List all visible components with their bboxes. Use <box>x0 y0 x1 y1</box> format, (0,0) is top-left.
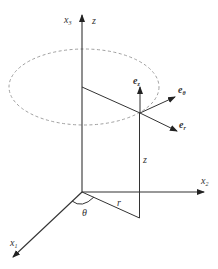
ez-label: ez <box>133 75 140 87</box>
radial-line-top <box>82 87 140 113</box>
radius-line <box>82 192 140 218</box>
height-z-label: z <box>142 154 147 165</box>
dashed-circle <box>9 49 159 125</box>
radius-r-label: r <box>117 197 121 208</box>
x1-axis <box>13 192 82 257</box>
cylindrical-coordinates-diagram: x3 z x2 x1 ez eθ er z r θ <box>0 0 218 269</box>
etheta-vector <box>140 97 175 113</box>
z-axis-label: z <box>91 15 96 26</box>
er-vector <box>140 113 177 131</box>
er-label: er <box>179 119 186 131</box>
x3-label: x3 <box>63 14 71 26</box>
theta-label: θ <box>82 207 87 218</box>
x2-label: x2 <box>200 175 208 187</box>
etheta-label: eθ <box>178 84 186 96</box>
x1-label: x1 <box>9 237 17 249</box>
